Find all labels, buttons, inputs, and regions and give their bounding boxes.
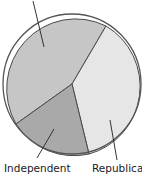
label-republican: Republican [92, 162, 142, 174]
label-independent: Independent [4, 162, 71, 174]
pie-chart: Independent Republican [0, 0, 142, 176]
